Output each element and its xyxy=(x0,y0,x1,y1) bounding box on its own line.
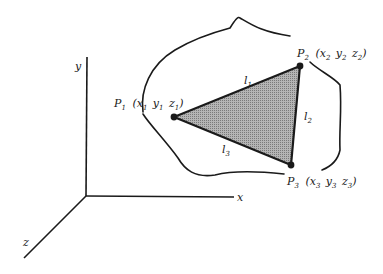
point-label-p1: P1 (x1 y1 z1) xyxy=(113,97,184,113)
vertex-p1 xyxy=(171,114,178,121)
z-axis xyxy=(24,196,86,258)
edge-label-l1: l1 xyxy=(244,74,252,89)
triangle xyxy=(171,63,304,169)
edge-label-l3: l3 xyxy=(222,143,231,158)
x-axis-label: x xyxy=(237,191,244,204)
y-axis xyxy=(86,57,87,196)
diagram-canvas: y x z l1 l2 l3 P1 (x1 y1 z1) P2 (x2 y2 z… xyxy=(0,0,383,274)
point-label-p3: P3 (x3 y3 z3) xyxy=(286,175,357,191)
y-axis-label: y xyxy=(74,60,82,73)
vertex-p2 xyxy=(297,63,304,70)
point-label-p2: P2 (x2 y2 z2) xyxy=(296,47,367,63)
x-axis xyxy=(86,196,234,197)
vertex-p3 xyxy=(288,162,295,169)
coordinate-axes: y x z xyxy=(22,57,244,258)
triangle-face xyxy=(174,66,300,165)
edge-label-l2: l2 xyxy=(304,110,313,125)
z-axis-label: z xyxy=(22,236,29,249)
